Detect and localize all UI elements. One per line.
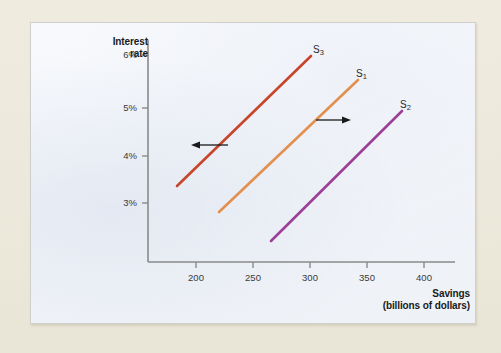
curve-label-s3: S3 <box>313 44 324 55</box>
curve-s3 <box>177 56 311 186</box>
figure-screenshot: Interest rate Savings (billions of dolla… <box>0 0 501 353</box>
y-tick-label-4: 4% <box>107 150 137 161</box>
curve-label-s3-sub: 3 <box>320 48 324 57</box>
x-tick-label-200: 200 <box>176 272 216 283</box>
x-axis-title-line1: Savings <box>300 288 470 300</box>
y-tick-label-5: 5% <box>107 102 137 113</box>
curve-label-s2: S2 <box>400 99 411 110</box>
y-tick-label-3: 3% <box>107 197 137 208</box>
curve-label-s1-sub: 1 <box>363 72 367 81</box>
x-tick-label-300: 300 <box>290 272 330 283</box>
curve-s1 <box>219 80 358 212</box>
y-axis-title-line1: Interest <box>72 36 148 48</box>
x-tick-label-350: 350 <box>347 272 387 283</box>
arrow-right-icon <box>316 117 351 124</box>
curve-s2 <box>271 111 402 241</box>
x-tick-label-400: 400 <box>404 272 444 283</box>
x-axis-title-line2: (billions of dollars) <box>300 300 470 312</box>
curve-label-s2-text: S <box>400 99 407 110</box>
x-axis-title: Savings (billions of dollars) <box>300 288 470 312</box>
x-tick-label-250: 250 <box>233 272 273 283</box>
y-tick-label-6: 6% <box>107 49 137 60</box>
curve-label-s3-text: S <box>313 44 320 55</box>
curve-label-s1-text: S <box>356 68 363 79</box>
curve-label-s2-sub: 2 <box>407 103 411 112</box>
curve-label-s1: S1 <box>356 68 367 79</box>
